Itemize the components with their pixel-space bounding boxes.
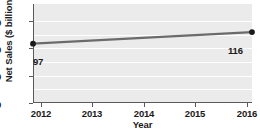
gridline-100 [34,48,252,49]
x-tick-label-2014: 2014 [122,108,166,119]
y-tick-label-150: 150 [0,17,1,28]
x-tick-mark-2012 [41,103,42,107]
gridline-75 [34,62,252,63]
gridlines-group [34,4,252,102]
gridline-50 [34,76,252,77]
y-tick-mark-0 [29,103,33,104]
x-tick-label-2012: 2012 [19,108,63,119]
x-tick-label-2015: 2015 [173,108,217,119]
data-label-2012: 97 [33,56,43,67]
gridline-125 [34,35,252,36]
x-tick-label-2016: 2016 [225,108,260,119]
y-axis-title: Net Sales ($ billions) [2,0,16,83]
x-axis-title: Year [33,119,252,130]
y-tick-label-0: 0 [0,99,1,110]
y-tick-label-100: 100 [0,44,1,55]
x-tick-mark-2014 [144,103,145,107]
data-label-2016: 116 [228,45,243,56]
x-tick-mark-2015 [195,103,196,107]
plot-area [33,4,252,103]
line-chart: Net Sales ($ billions) 0 50 100 150 2012… [0,0,260,134]
x-tick-label-2013: 2013 [70,108,114,119]
gridline-25 [34,89,252,90]
x-tick-mark-2016 [247,103,248,107]
x-tick-mark-2013 [92,103,93,107]
y-tick-label-50: 50 [0,71,1,82]
gridline-150 [34,21,252,22]
